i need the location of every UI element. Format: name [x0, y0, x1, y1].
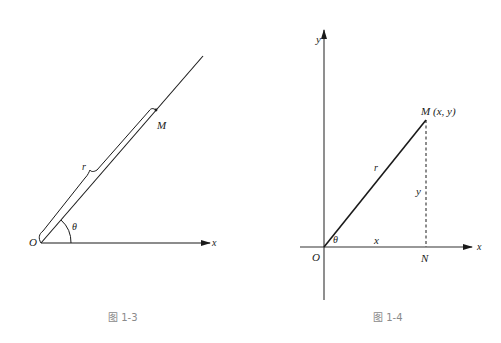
point-m-coords: (x, y): [433, 106, 456, 117]
figure-1-4: y x O N M (x, y) r y x θ 图 1-4: [250, 0, 501, 343]
y-axis-label: y: [316, 34, 321, 45]
caption-fig-1-3: 图 1-3: [108, 313, 138, 323]
origin-label: O: [312, 252, 320, 263]
angle-arc: [61, 220, 71, 243]
foot-n-label: N: [421, 253, 428, 264]
y-leg-label: y: [416, 186, 421, 197]
angle-label: θ: [72, 222, 77, 232]
angle-label: θ: [333, 235, 338, 245]
x-axis-label: x: [212, 238, 216, 248]
caption-fig-1-4: 图 1-4: [373, 313, 403, 323]
segment-om: [324, 120, 426, 247]
point-m-dot: [155, 109, 158, 112]
x-axis-label: x: [477, 242, 481, 252]
radius-label: r: [374, 163, 378, 173]
point-m-label: M: [157, 120, 166, 131]
ray-om: [41, 56, 203, 243]
origin-label: O: [29, 237, 37, 248]
point-m-label: M: [421, 106, 430, 117]
polar-diagram: [0, 0, 250, 343]
radius-brace: [39, 109, 156, 243]
x-leg-label: x: [374, 235, 379, 246]
radius-label: r: [82, 162, 86, 172]
figure-1-3: O M r θ x 图 1-3: [0, 0, 250, 343]
